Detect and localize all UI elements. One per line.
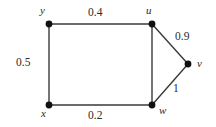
edge-weight-y-x: 0.5 <box>16 57 30 69</box>
edge-weight-x-w: 0.2 <box>88 110 102 122</box>
graph-node-x <box>46 102 53 109</box>
graph-edge-w-v <box>152 64 188 105</box>
graph-node-u <box>149 21 156 28</box>
nodes-group <box>46 21 192 109</box>
node-label-v: v <box>197 58 202 69</box>
node-label-w: w <box>159 105 166 116</box>
graph-node-y <box>46 21 53 28</box>
node-label-u: u <box>146 5 152 16</box>
node-label-x: x <box>41 108 46 119</box>
edge-weight-y-u: 0.4 <box>88 7 102 19</box>
node-label-y: y <box>40 5 45 16</box>
graph-node-v <box>185 61 192 68</box>
graph-node-w <box>149 102 156 109</box>
edge-weight-w-v: 1 <box>173 83 179 95</box>
graph-canvas <box>0 0 216 127</box>
edges-group <box>49 24 188 105</box>
graph-figure: 0.40.50.20.91yuvwx <box>0 0 216 127</box>
edge-weight-u-v: 0.9 <box>175 31 189 43</box>
